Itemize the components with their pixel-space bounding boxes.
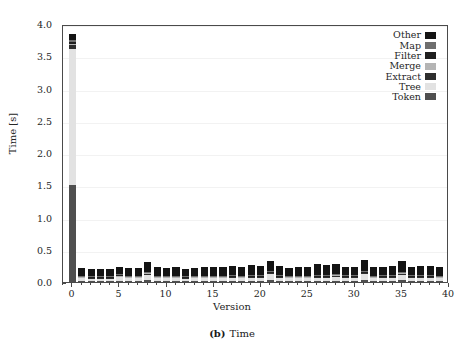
bar-segment-map bbox=[436, 276, 443, 277]
legend-item-merge: Merge bbox=[352, 61, 436, 71]
bar-segment-token bbox=[314, 281, 321, 282]
x-tick-minor bbox=[147, 283, 148, 285]
bar bbox=[257, 25, 264, 282]
bar-segment-tree bbox=[351, 277, 358, 280]
x-tick-minor bbox=[100, 283, 101, 285]
x-tick-minor bbox=[429, 283, 430, 285]
bar-segment-tree bbox=[154, 278, 161, 281]
bar-segment-other bbox=[361, 260, 368, 271]
bar bbox=[436, 25, 443, 282]
bar-segment-other bbox=[154, 267, 161, 275]
x-tick-minor bbox=[62, 283, 63, 285]
legend-swatch bbox=[425, 63, 436, 70]
x-tick-mark bbox=[213, 283, 214, 287]
bar-segment-tree bbox=[201, 278, 208, 281]
legend-label: Merge bbox=[389, 61, 421, 71]
bar bbox=[248, 25, 255, 282]
bar bbox=[342, 25, 349, 282]
bar-segment-token bbox=[116, 281, 123, 282]
x-tick-minor bbox=[382, 283, 383, 285]
bar bbox=[332, 25, 339, 282]
bar-segment-map bbox=[267, 271, 274, 272]
x-tick-minor bbox=[175, 283, 176, 285]
bar-segment-map bbox=[182, 276, 189, 277]
y-tick-label: 3.5 bbox=[18, 52, 52, 62]
bar-segment-map bbox=[210, 276, 217, 277]
legend-label: Map bbox=[400, 41, 421, 51]
y-tick-label: 3.0 bbox=[18, 85, 52, 95]
bar-segment-map bbox=[125, 276, 132, 277]
y-tick-label: 2.0 bbox=[18, 149, 52, 159]
bar-segment-token bbox=[389, 281, 396, 282]
bar-segment-map bbox=[229, 275, 236, 276]
bar-segment-token bbox=[106, 281, 113, 282]
bar-segment-other bbox=[323, 265, 330, 275]
bar-segment-tree bbox=[125, 278, 132, 281]
bar-segment-tree bbox=[342, 277, 349, 280]
bar-segment-tree bbox=[210, 278, 217, 281]
bar-segment-map bbox=[332, 274, 339, 275]
bar-segment-other bbox=[238, 267, 245, 275]
bar bbox=[285, 25, 292, 282]
bar-segment-tree bbox=[332, 276, 339, 281]
bar-segment-map bbox=[379, 275, 386, 276]
bar bbox=[219, 25, 226, 282]
bar bbox=[144, 25, 151, 282]
legend-label: Filter bbox=[394, 51, 421, 61]
bar-segment-map bbox=[417, 275, 424, 276]
x-tick-label: 10 bbox=[151, 288, 181, 299]
legend-label: Other bbox=[393, 30, 421, 40]
bar-segment-token bbox=[295, 281, 302, 282]
legend-swatch bbox=[425, 42, 436, 49]
bar bbox=[276, 25, 283, 282]
x-tick-minor bbox=[194, 283, 195, 285]
bar-segment-other bbox=[144, 262, 151, 272]
bar-segment-token bbox=[436, 281, 443, 282]
bar-segment-tree bbox=[314, 277, 321, 280]
bar-segment-other bbox=[267, 261, 274, 271]
bar-segment-tree bbox=[276, 277, 283, 280]
bar-segment-other bbox=[304, 267, 311, 275]
caption-text: Time bbox=[230, 328, 255, 339]
bar-segment-other bbox=[332, 264, 339, 274]
bar-segment-token bbox=[304, 281, 311, 282]
bar-segment-token bbox=[332, 281, 339, 282]
bar-segment-map bbox=[398, 272, 405, 273]
bar-segment-map bbox=[276, 275, 283, 276]
bar-segment-other bbox=[379, 267, 386, 275]
x-tick-label: 0 bbox=[56, 288, 86, 299]
bar-segment-token bbox=[182, 281, 189, 282]
bar-segment-other bbox=[257, 266, 264, 275]
bar-segment-tree bbox=[370, 278, 377, 281]
x-tick-label: 25 bbox=[292, 288, 322, 299]
x-tick-mark bbox=[307, 283, 308, 287]
bar-segment-other bbox=[389, 266, 396, 275]
bar-segment-tree bbox=[323, 277, 330, 280]
bar-segment-map bbox=[88, 276, 95, 277]
x-tick-minor bbox=[439, 283, 440, 285]
bar-segment-tree bbox=[417, 277, 424, 280]
bar-segment-tree bbox=[408, 277, 415, 280]
bar-segment-tree bbox=[135, 278, 142, 281]
bar-segment-token bbox=[417, 281, 424, 282]
bar-segment-other bbox=[116, 267, 123, 274]
bar-segment-tree bbox=[361, 274, 368, 280]
bar-segment-map bbox=[106, 276, 113, 277]
x-tick-minor bbox=[410, 283, 411, 285]
y-tick-label: 0.5 bbox=[18, 246, 52, 256]
bar-segment-map bbox=[135, 276, 142, 277]
x-tick-minor bbox=[250, 283, 251, 285]
x-tick-minor bbox=[297, 283, 298, 285]
bar-segment-tree bbox=[248, 277, 255, 280]
legend-swatch bbox=[425, 93, 436, 100]
bar-segment-token bbox=[351, 281, 358, 282]
bar bbox=[88, 25, 95, 282]
x-tick-mark bbox=[71, 283, 72, 287]
x-tick-minor bbox=[316, 283, 317, 285]
bar-segment-other bbox=[342, 267, 349, 275]
figure-caption: (b)Time bbox=[0, 328, 464, 339]
bar-segment-tree bbox=[116, 277, 123, 281]
bar-segment-other bbox=[427, 266, 434, 275]
bar-segment-other bbox=[248, 265, 255, 275]
legend-item-other: Other bbox=[352, 30, 436, 40]
